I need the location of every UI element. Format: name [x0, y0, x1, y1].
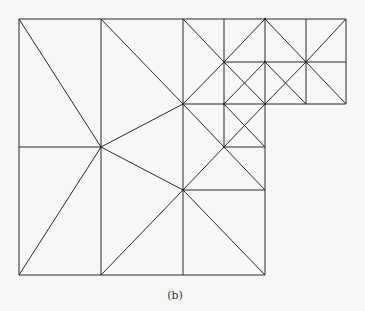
- mesh-node: [264, 103, 266, 105]
- mesh-edge: [101, 190, 183, 275]
- mesh-node: [223, 61, 225, 63]
- mesh-edge: [265, 19, 306, 62]
- mesh-edge: [183, 190, 265, 275]
- mesh-node: [223, 146, 225, 148]
- mesh-edge: [183, 19, 224, 62]
- mesh-edge: [101, 19, 183, 104]
- mesh-node: [223, 103, 225, 105]
- mesh-edge: [101, 104, 183, 147]
- mesh-node: [264, 18, 266, 20]
- mesh-edge: [224, 19, 265, 62]
- mesh-node: [100, 146, 102, 148]
- mesh-node: [182, 189, 184, 191]
- mesh-edge: [19, 147, 101, 275]
- mesh-diagram: [0, 0, 365, 311]
- mesh-edge: [183, 147, 224, 190]
- mesh-edge: [19, 19, 101, 147]
- mesh-node: [182, 103, 184, 105]
- mesh-node: [264, 61, 266, 63]
- figure-caption: (b): [0, 289, 350, 302]
- mesh-node: [305, 61, 307, 63]
- mesh-edge: [183, 62, 224, 104]
- mesh-edge: [101, 147, 183, 190]
- mesh-edge: [306, 62, 346, 104]
- mesh-edge: [306, 19, 346, 62]
